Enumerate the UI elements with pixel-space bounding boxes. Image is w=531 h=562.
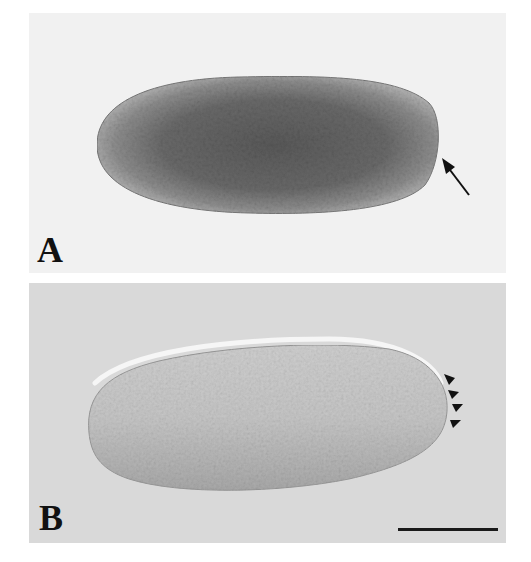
embryo-b — [89, 345, 448, 490]
embryo-a — [97, 76, 438, 213]
panel-label-a: A — [37, 232, 63, 268]
arrow-icon — [442, 158, 469, 195]
embryo-a-image — [29, 13, 506, 273]
panel-label-b: B — [39, 500, 63, 536]
embryo-b-image — [29, 283, 506, 543]
scale-bar — [398, 528, 498, 531]
panel-b: B — [29, 283, 506, 543]
panel-a: A — [29, 13, 506, 273]
